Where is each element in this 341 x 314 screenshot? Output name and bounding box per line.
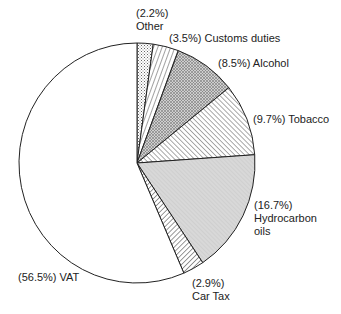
label-hydrocarbon-oils: oils [254, 225, 271, 238]
label-other-pct: (2.2%) [136, 7, 168, 20]
label-alcohol: (8.5%) Alcohol [218, 57, 289, 70]
label-hydrocarbon-pct: (16.7%) [254, 199, 293, 212]
label-hydrocarbon: Hydrocarbon [254, 212, 317, 225]
label-tobacco: (9.7%) Tobacco [253, 113, 329, 126]
pie-slices [19, 43, 255, 283]
label-other: Other [136, 20, 164, 33]
pie-chart [0, 0, 341, 314]
label-cartax-pct: (2.9%) [192, 277, 224, 290]
label-cartax: Car Tax [192, 290, 230, 303]
label-customs: (3.5%) Customs duties [169, 32, 280, 45]
label-vat: (56.5%) VAT [18, 271, 79, 284]
